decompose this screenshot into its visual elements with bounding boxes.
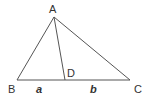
- triangle-diagram: A B C D a b: [0, 0, 145, 101]
- label-segment-a: a: [36, 83, 42, 95]
- segment-ac: [54, 17, 130, 80]
- segment-ad: [54, 17, 65, 80]
- label-point-b: B: [8, 83, 15, 95]
- label-point-c: C: [134, 83, 142, 95]
- label-segment-b: b: [90, 83, 97, 95]
- label-point-a: A: [49, 3, 57, 15]
- label-point-d: D: [67, 67, 75, 79]
- segment-ab: [17, 17, 54, 80]
